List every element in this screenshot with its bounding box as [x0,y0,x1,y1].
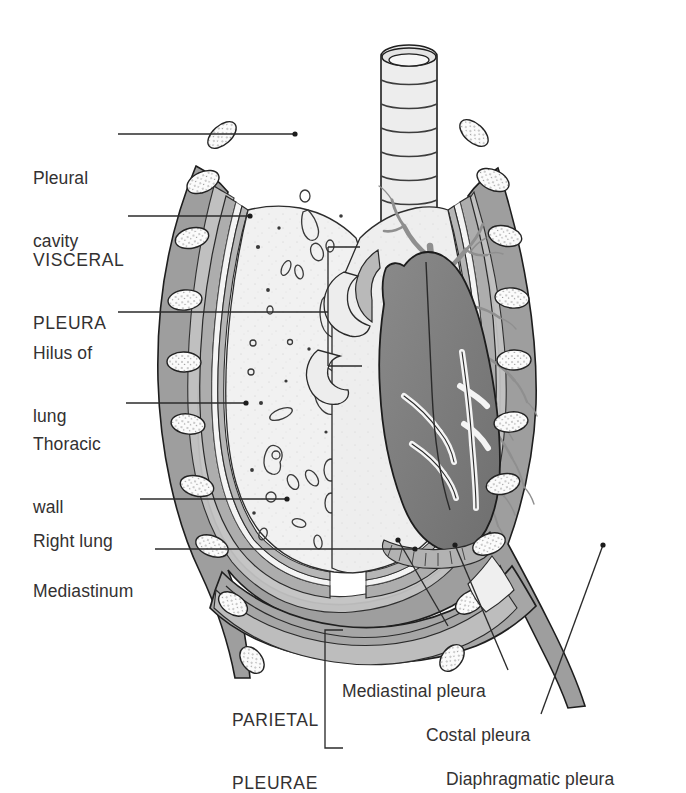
label-parietal-pleurae: PARIETAL PLEURAE [232,668,319,793]
dot-thoracic-wall [243,400,248,405]
dot-right-lung [284,496,289,501]
label-diaphragmatic-pleura: Diaphragmatic pleura [446,727,614,793]
trachea-lumen-inner [389,54,429,66]
dot-mediastinal-pleura [395,537,400,542]
label-line: Mediastinum [33,581,133,602]
dot-pleural-cavity [292,131,297,136]
label-mediastinum: Mediastinum [33,539,133,644]
dot-visceral-pleura [247,213,252,218]
rib-section [497,349,532,370]
label-line: PLEURAE [232,773,319,793]
label-line: VISCERAL [33,250,124,271]
label-line: Thoracic [33,434,101,455]
label-line: Hilus of [33,343,92,364]
label-line: PARIETAL [232,710,319,731]
dot-mediastinum [412,546,417,551]
label-line: Diaphragmatic pleura [446,769,614,790]
dot-diaphragmatic-pleura [600,542,605,547]
dot-costal-pleura [452,542,457,547]
rib-section [167,351,202,372]
rib-section [203,117,241,154]
rib-section [455,115,493,152]
label-line: Pleural [33,168,88,189]
